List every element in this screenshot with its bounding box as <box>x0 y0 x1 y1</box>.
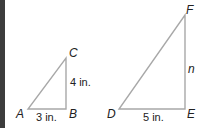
vertex-label-c: C <box>69 46 78 60</box>
vertex-label-f: F <box>186 3 194 17</box>
vertex-label-e: E <box>187 107 196 121</box>
vertex-label-d: D <box>107 107 116 121</box>
triangle-def <box>119 15 185 109</box>
vertex-label-a: A <box>15 107 24 121</box>
side-ef-unknown: n <box>188 62 195 76</box>
similar-triangles-figure: A B C 3 in. 4 in. D E F 5 in. n <box>0 0 209 128</box>
vertex-label-b: B <box>69 107 77 121</box>
triangle-abc <box>28 58 66 109</box>
side-bc-length: 4 in. <box>70 76 91 88</box>
side-ab-length: 3 in. <box>36 111 57 123</box>
side-de-length: 5 in. <box>143 111 164 123</box>
